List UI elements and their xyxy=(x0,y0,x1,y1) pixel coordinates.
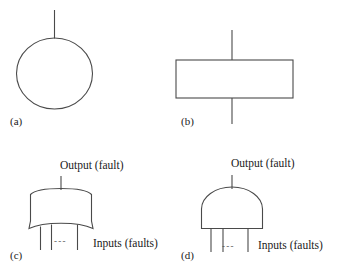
and-gate-ellipsis: - - - xyxy=(222,242,233,251)
panel-a-circle-symbol xyxy=(17,10,93,109)
panel-label-c: (c) xyxy=(10,250,22,261)
circle-shape xyxy=(17,38,93,109)
panel-label-b: (b) xyxy=(181,116,194,127)
and-gate-output-label: Output (fault) xyxy=(231,158,295,170)
rectangle-shape xyxy=(176,60,293,98)
or-gate-output-label: Output (fault) xyxy=(60,160,124,172)
panel-label-a: (a) xyxy=(10,116,22,127)
panel-b-rectangle-symbol xyxy=(176,30,293,124)
or-gate-body-shape xyxy=(29,189,93,229)
or-gate-inputs-label: Inputs (faults) xyxy=(93,238,158,250)
fault-tree-symbols-diagram xyxy=(0,0,342,274)
figure-canvas: (a) (b) (c) (d) Output (fault) Inputs (f… xyxy=(0,0,342,274)
panel-label-d: (d) xyxy=(181,250,194,261)
or-gate-ellipsis: - - - xyxy=(54,237,65,246)
and-gate-body-shape xyxy=(201,187,262,229)
and-gate-inputs-label: Inputs (faults) xyxy=(258,240,323,252)
